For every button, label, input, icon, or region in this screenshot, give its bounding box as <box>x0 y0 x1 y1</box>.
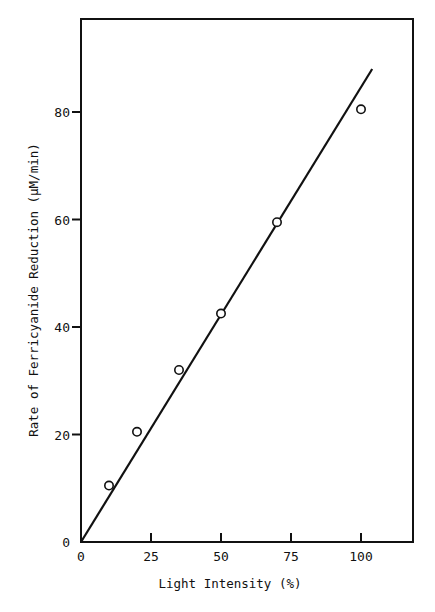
y-axis-label: Rate of Ferricyanide Reduction (µM/min) <box>26 143 41 437</box>
fit-line <box>81 69 372 542</box>
data-point <box>133 428 141 436</box>
x-axis-label: Light Intensity (%) <box>159 576 302 591</box>
data-points <box>105 105 365 490</box>
y-axis-ticks: 020406080 <box>54 105 81 550</box>
y-tick-label: 60 <box>54 213 70 228</box>
x-tick-label: 50 <box>213 549 229 564</box>
y-tick-label: 80 <box>54 105 70 120</box>
x-tick-label: 100 <box>349 549 372 564</box>
x-tick-label: 0 <box>77 549 85 564</box>
x-tick-label: 75 <box>283 549 299 564</box>
data-point <box>273 218 281 226</box>
x-tick-label: 25 <box>143 549 159 564</box>
data-point <box>105 481 113 489</box>
plot-frame <box>81 19 413 542</box>
y-tick-label: 40 <box>54 320 70 335</box>
y-tick-label: 20 <box>54 428 70 443</box>
data-point <box>217 309 225 317</box>
y-tick-label: 0 <box>62 535 70 550</box>
x-axis-ticks: 0255075100 <box>77 533 373 564</box>
chart: 0255075100 020406080 Light Intensity (%)… <box>0 0 435 612</box>
data-point <box>357 105 365 113</box>
data-point <box>175 366 183 374</box>
